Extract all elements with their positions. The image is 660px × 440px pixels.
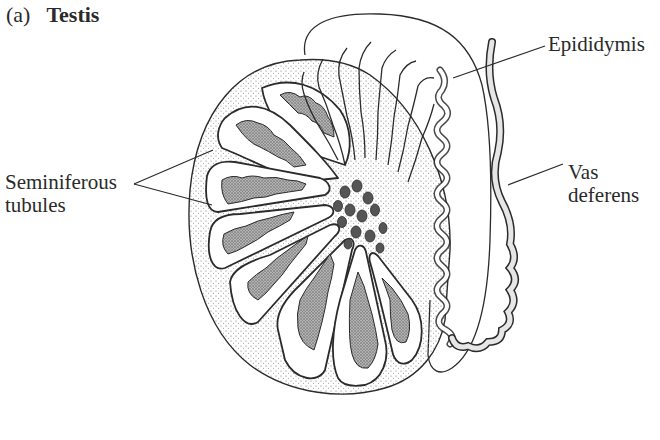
- label-vas-line2: deferens: [568, 184, 639, 207]
- label-seminiferous-tubules: Seminiferous tubules: [5, 171, 117, 217]
- testis-diagram: (a)Testis Epididymis Seminiferous tubule…: [0, 0, 660, 440]
- leader-vas-deferens: [508, 164, 563, 185]
- label-vas-deferens: Vas deferens: [568, 161, 639, 207]
- label-seminiferous-line1: Seminiferous: [5, 171, 117, 194]
- testis-illustration: [0, 0, 660, 440]
- figure-name: Testis: [46, 2, 99, 27]
- label-vas-line1: Vas: [568, 161, 639, 184]
- label-epididymis: Epididymis: [548, 33, 645, 56]
- figure-title: (a)Testis: [6, 3, 99, 26]
- label-seminiferous-line2: tubules: [5, 194, 117, 217]
- panel-letter: (a): [6, 2, 30, 27]
